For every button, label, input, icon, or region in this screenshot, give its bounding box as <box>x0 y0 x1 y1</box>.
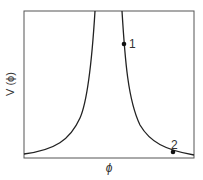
point-1-marker <box>122 42 127 47</box>
point-2-label: 2 <box>171 138 178 152</box>
plot-frame <box>24 11 194 158</box>
point-1-label: 1 <box>129 37 136 51</box>
curve-right-branch <box>122 11 194 155</box>
y-axis-label: V (ϕ) <box>4 72 16 96</box>
potential-diagram: 1 2 V (ϕ) ϕ <box>0 0 203 180</box>
x-axis-label: ϕ <box>106 161 113 175</box>
curve-left-branch <box>24 11 95 154</box>
